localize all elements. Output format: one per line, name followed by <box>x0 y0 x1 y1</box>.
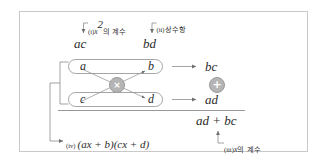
term-a: a <box>80 60 86 72</box>
product-ad: ad <box>205 93 218 106</box>
callout-marker-iv: (iv) <box>66 142 76 149</box>
callout-text-i: 의 계수 <box>103 27 126 36</box>
callout-text-ii: 상수항 <box>165 25 186 34</box>
callout-label-ii: (ii)상수항 <box>157 19 186 35</box>
result-label-iv: (iv)(ax + b)(cx + d) <box>66 135 149 151</box>
multiply-node-symbol: × <box>113 80 121 90</box>
callout-text-iii: 의 계수 <box>237 145 260 154</box>
callout-marker-ii: (ii) <box>157 26 165 33</box>
term-c: c <box>80 93 85 105</box>
plus-node: + <box>209 77 225 93</box>
term-d: d <box>148 93 154 105</box>
product-ac: ac <box>74 37 86 50</box>
product-bd: bd <box>143 37 156 50</box>
sum-expression: ad + bc <box>196 114 237 127</box>
callout-marker-iii: (iii) <box>224 146 234 153</box>
plus-node-symbol: + <box>212 78 221 91</box>
term-b: b <box>148 60 154 72</box>
callout-label-i: (i)x2의 계수 <box>88 19 126 37</box>
product-bc: bc <box>205 60 217 73</box>
callout-label-iii: (iii)x의 계수 <box>224 139 261 155</box>
multiply-node: × <box>109 77 125 93</box>
factored-result: (ax + b)(cx + d) <box>78 138 150 150</box>
figure-canvas: (i)x2의 계수 (ii)상수항 ac bd a b c d × + bc a… <box>0 0 327 165</box>
